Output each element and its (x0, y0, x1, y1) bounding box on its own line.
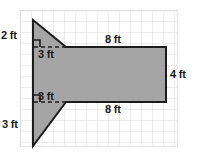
label-bottom-triangle-base: 3 ft (38, 90, 54, 102)
label-bottom-triangle-height: 3 ft (2, 118, 18, 130)
label-top-triangle-height: 2 ft (1, 29, 17, 41)
label-rectangle-top: 8 ft (105, 33, 121, 45)
label-rectangle-right: 4 ft (170, 68, 186, 80)
label-top-triangle-base: 3 ft (38, 48, 54, 60)
composite-figure-diagram: 2 ft 3 ft 3 ft 3 ft 8 ft 8 ft 4 ft (0, 0, 201, 157)
label-rectangle-bottom: 8 ft (105, 103, 121, 115)
